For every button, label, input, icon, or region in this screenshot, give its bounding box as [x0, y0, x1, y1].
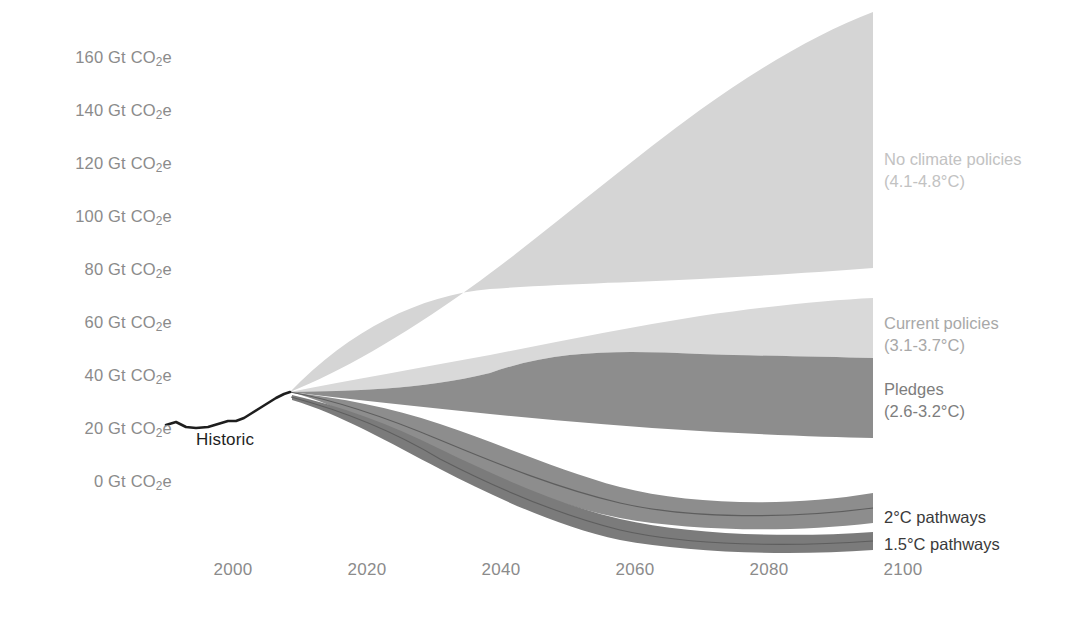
x-tick-2040: 2040 — [481, 560, 520, 580]
y-tick-140: 140 Gt CO2e — [75, 101, 172, 122]
pledges-temp: (2.6-3.2°C) — [884, 400, 965, 422]
series-label-current-policies: Current policies (3.1-3.7°C) — [884, 312, 999, 356]
emissions-scenarios-chart: 160 Gt CO2e 140 Gt CO2e 120 Gt CO2e 100 … — [0, 0, 1072, 625]
series-label-historic: Historic — [196, 430, 254, 450]
two-degree-name: 2°C pathways — [884, 506, 986, 528]
no-climate-policies-temp: (4.1-4.8°C) — [884, 170, 1022, 192]
x-tick-2100: 2100 — [883, 560, 922, 580]
y-tick-100: 100 Gt CO2e — [75, 207, 172, 228]
pledges-name: Pledges — [884, 378, 965, 400]
series-label-pledges: Pledges (2.6-3.2°C) — [884, 378, 965, 422]
current-policies-name: Current policies — [884, 312, 999, 334]
y-tick-120: 120 Gt CO2e — [75, 154, 172, 175]
y-axis: 160 Gt CO2e 140 Gt CO2e 120 Gt CO2e 100 … — [0, 0, 172, 625]
y-tick-0: 0 Gt CO2e — [94, 472, 172, 493]
no-climate-policies-name: No climate policies — [884, 148, 1022, 170]
current-policies-temp: (3.1-3.7°C) — [884, 334, 999, 356]
line-historic — [166, 392, 290, 428]
one-five-degree-name: 1.5°C pathways — [884, 533, 1000, 555]
x-tick-2080: 2080 — [749, 560, 788, 580]
x-tick-2000: 2000 — [213, 560, 252, 580]
y-tick-160: 160 Gt CO2e — [75, 48, 172, 69]
y-tick-60: 60 Gt CO2e — [85, 313, 173, 334]
x-tick-2020: 2020 — [347, 560, 386, 580]
series-label-no-climate-policies: No climate policies (4.1-4.8°C) — [884, 148, 1022, 192]
series-label-1-5c-pathways: 1.5°C pathways — [884, 533, 1000, 555]
y-tick-20: 20 Gt CO2e — [85, 419, 173, 440]
y-tick-40: 40 Gt CO2e — [85, 366, 173, 387]
x-tick-2060: 2060 — [615, 560, 654, 580]
y-tick-80: 80 Gt CO2e — [85, 260, 173, 281]
series-label-2c-pathways: 2°C pathways — [884, 506, 986, 528]
